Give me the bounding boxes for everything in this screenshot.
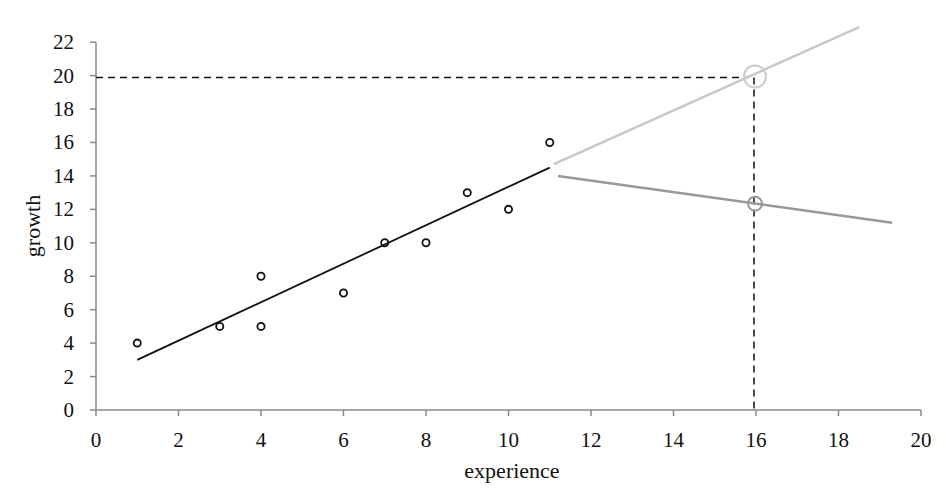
x-tick-label: 6 xyxy=(338,428,349,452)
data-point xyxy=(134,340,141,347)
y-tick-label: 0 xyxy=(64,398,75,422)
data-point xyxy=(216,323,223,330)
x-tick-label: 4 xyxy=(256,428,267,452)
y-tick-label: 10 xyxy=(53,231,74,255)
line-extrapolation-up xyxy=(554,27,859,164)
data-point xyxy=(257,323,264,330)
line-extrapolation-down xyxy=(558,176,892,223)
data-point xyxy=(505,206,512,213)
x-tick-label: 2 xyxy=(173,428,184,452)
data-points xyxy=(134,139,554,347)
x-tick-label: 16 xyxy=(746,428,767,452)
y-tick-label: 14 xyxy=(53,164,75,188)
y-tick-label: 8 xyxy=(64,264,75,288)
x-tick-label: 12 xyxy=(581,428,602,452)
data-point xyxy=(422,239,429,246)
axes: 024681012141618200246810121416182022 xyxy=(53,30,932,452)
x-tick-label: 0 xyxy=(91,428,102,452)
x-tick-label: 10 xyxy=(498,428,519,452)
y-tick-label: 16 xyxy=(53,130,74,154)
x-tick-label: 14 xyxy=(663,428,685,452)
reference-lines xyxy=(96,78,754,410)
data-point xyxy=(546,139,553,146)
x-tick-label: 18 xyxy=(828,428,849,452)
x-tick-label: 20 xyxy=(911,428,932,452)
data-point xyxy=(257,273,264,280)
y-tick-label: 4 xyxy=(64,331,75,355)
y-tick-label: 6 xyxy=(64,298,75,322)
data-point xyxy=(340,289,347,296)
y-tick-label: 12 xyxy=(53,197,74,221)
data-point xyxy=(464,189,471,196)
x-tick-label: 8 xyxy=(421,428,432,452)
y-tick-label: 2 xyxy=(64,365,75,389)
highlight-markers xyxy=(744,66,766,211)
y-axis-title: growth xyxy=(20,195,45,257)
y-tick-label: 22 xyxy=(53,30,74,54)
line-fit xyxy=(137,168,550,360)
y-tick-label: 18 xyxy=(53,97,74,121)
series-lines xyxy=(137,27,892,360)
x-axis-title: experience xyxy=(464,458,559,483)
chart: 024681012141618200246810121416182022 exp… xyxy=(0,0,946,503)
y-tick-label: 20 xyxy=(53,64,74,88)
